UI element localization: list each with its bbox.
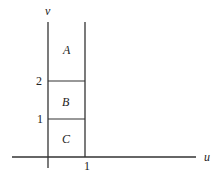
v-tick-1: 1	[37, 112, 43, 126]
v-axis-label: v	[45, 4, 51, 18]
region-c-label: C	[62, 132, 71, 146]
region-a-label: A	[62, 43, 71, 57]
u-axis-label: u	[204, 150, 210, 164]
uv-plane-diagram: v u 2 1 1 A B C	[0, 0, 220, 180]
u-tick-1: 1	[84, 159, 90, 173]
v-tick-2: 2	[36, 74, 42, 88]
region-b-label: B	[62, 95, 70, 109]
